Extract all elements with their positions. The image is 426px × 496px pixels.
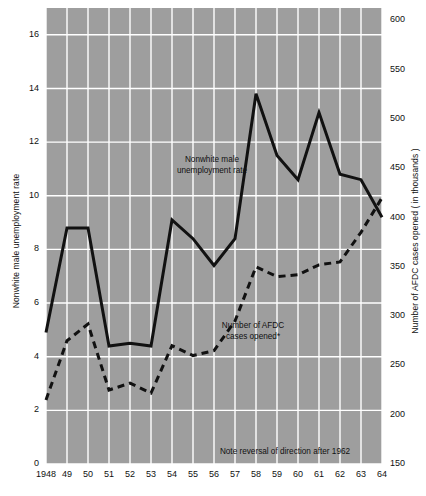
y-axis-tick-right: 250 — [390, 359, 422, 369]
y-axis-tick-right: 200 — [390, 409, 422, 419]
y-axis-tick-right: 500 — [390, 113, 422, 123]
y-axis-tick-right: 350 — [390, 261, 422, 271]
annotation-series-2-label: Number of AFDCcases opened* — [53, 320, 426, 342]
y-axis-tick-left: 16 — [8, 29, 39, 39]
plot-canvas — [0, 0, 426, 496]
y-axis-tick-right: 400 — [390, 212, 422, 222]
annotation-series-1-label: Nonwhite maleunemployment rate — [12, 154, 412, 176]
annotation-note-label: Note reversal of direction after 1962 — [85, 446, 426, 457]
chart-figure: Nonwhite male unemployment rate Number o… — [0, 0, 426, 496]
y-axis-tick-left: 2 — [8, 404, 39, 414]
y-axis-tick-left: 12 — [8, 136, 39, 146]
y-axis-tick-right: 550 — [390, 64, 422, 74]
y-axis-tick-left: 14 — [8, 83, 39, 93]
y-axis-tick-left: 4 — [8, 351, 39, 361]
y-axis-tick-right: 150 — [390, 458, 422, 468]
y-axis-tick-left: 8 — [8, 243, 39, 253]
y-axis-tick-right: 600 — [390, 14, 422, 24]
x-axis-tick: 64 — [366, 469, 398, 479]
y-axis-tick-left: 10 — [8, 190, 39, 200]
y-axis-tick-right: 300 — [390, 310, 422, 320]
y-axis-tick-left: 0 — [8, 458, 39, 468]
y-axis-tick-left: 6 — [8, 297, 39, 307]
